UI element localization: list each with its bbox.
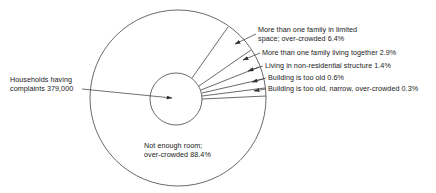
label-limited-space-line1: More than one family in limited	[258, 25, 357, 34]
label-households: Households having complaints 379,000	[10, 75, 73, 93]
arrow-limited-space	[235, 34, 256, 44]
boundary-0-3-88-4	[202, 96, 266, 99]
label-not-enough-line2: over-crowded 88.4%	[144, 150, 211, 159]
outer-circle	[90, 10, 266, 186]
arrow-households	[82, 89, 172, 98]
boundary-0-6-0-3	[202, 88, 265, 96]
label-limited-space: More than one family in limited space; o…	[258, 25, 357, 43]
label-limited-space-line2: space; over-crowded 6.4%	[258, 34, 357, 43]
label-non-residential: Living in non-residential structure 1.4%	[265, 61, 391, 70]
label-households-line1: Households having	[10, 75, 73, 84]
inner-circle	[150, 73, 202, 125]
label-too-old-narrow: Building is too old, narrow, over-crowde…	[268, 84, 418, 93]
callout-arrows	[82, 34, 266, 98]
label-households-line2: complaints 379,000	[10, 84, 73, 93]
boundary-top-6-4	[192, 27, 228, 78]
label-too-old: Building is too old 0.6%	[268, 73, 344, 82]
label-not-enough-room: Not enough room; over-crowded 88.4%	[144, 141, 211, 159]
label-not-enough-line1: Not enough room;	[144, 141, 211, 150]
slice-boundaries	[192, 27, 266, 99]
label-living-together: More than one family living together 2.9…	[262, 48, 396, 57]
pie-chart	[0, 0, 436, 193]
